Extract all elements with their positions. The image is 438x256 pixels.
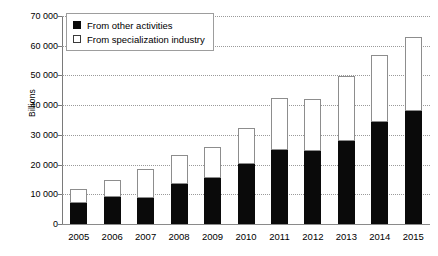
- bar-group: [271, 98, 288, 224]
- bar-group: [104, 180, 121, 224]
- bar-group: [304, 99, 321, 224]
- legend-swatch-white-icon: [73, 35, 81, 43]
- bar-segment-other-activities: [238, 164, 255, 224]
- bar-group: [238, 128, 255, 224]
- bar-segment-other-activities: [271, 150, 288, 224]
- x-tick-label: 2015: [393, 231, 433, 242]
- legend-label-specialization-industry: From specialization industry: [87, 34, 205, 45]
- bar-segment-other-activities: [70, 203, 87, 224]
- y-tick-label: 40 000: [4, 101, 58, 110]
- bar-group: [204, 147, 221, 224]
- bar-segment-other-activities: [371, 122, 388, 224]
- bar-segment-other-activities: [171, 184, 188, 224]
- bar-group: [371, 55, 388, 224]
- y-tick-label: 20 000: [4, 161, 58, 170]
- gridline: [62, 224, 430, 225]
- bar-segment-other-activities: [405, 111, 422, 224]
- bar-segment-specialization-industry: [271, 98, 288, 150]
- stacked-bar-chart: Billions 010 00020 00030 00040 00050 000…: [0, 0, 438, 256]
- bar-group: [171, 155, 188, 224]
- bar-group: [70, 189, 87, 224]
- legend-item-specialization-industry: From specialization industry: [73, 32, 205, 46]
- y-tick-label: 60 000: [4, 42, 58, 51]
- bar-segment-specialization-industry: [371, 55, 388, 122]
- bar-segment-other-activities: [304, 151, 321, 224]
- bar-segment-specialization-industry: [405, 37, 422, 112]
- y-tick-label: 70 000: [4, 12, 58, 21]
- bar-segment-specialization-industry: [104, 180, 121, 197]
- bar-segment-specialization-industry: [204, 147, 221, 178]
- legend-swatch-black-icon: [73, 21, 81, 29]
- bar-segment-other-activities: [204, 178, 221, 224]
- bar-segment-specialization-industry: [238, 128, 255, 164]
- bar-segment-other-activities: [104, 197, 121, 224]
- y-tick-label: 0: [4, 220, 58, 229]
- y-tick-label: 50 000: [4, 71, 58, 80]
- bar-segment-specialization-industry: [137, 169, 154, 198]
- bar-group: [338, 76, 355, 224]
- legend-item-other-activities: From other activities: [73, 18, 205, 32]
- y-axis-ticks: 010 00020 00030 00040 00050 00060 00070 …: [0, 0, 58, 256]
- bar-segment-specialization-industry: [70, 189, 87, 203]
- bar-segment-other-activities: [137, 198, 154, 224]
- bar-segment-other-activities: [338, 141, 355, 224]
- y-tick-label: 30 000: [4, 131, 58, 140]
- bar-group: [137, 169, 154, 224]
- bar-segment-specialization-industry: [171, 155, 188, 184]
- y-tick-label: 10 000: [4, 190, 58, 199]
- bar-segment-specialization-industry: [338, 76, 355, 141]
- bar-segment-specialization-industry: [304, 99, 321, 151]
- legend: From other activities From specializatio…: [66, 13, 214, 51]
- legend-label-other-activities: From other activities: [87, 20, 173, 31]
- bar-group: [405, 37, 422, 224]
